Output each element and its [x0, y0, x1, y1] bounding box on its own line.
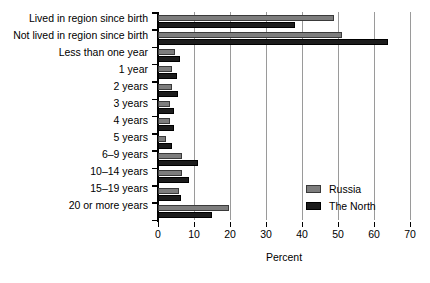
bar-russia-0 [158, 15, 334, 21]
category-label-2-years: 2 years [114, 81, 148, 92]
category-label-lived-since-birth: Lived in region since birth [29, 13, 148, 24]
bar-russia-5 [158, 101, 170, 107]
category-label-6-9-years: 6–9 years [102, 149, 148, 160]
x-tick-mark-10 [194, 222, 196, 227]
x-tick-mark-50 [338, 222, 340, 227]
bar-russia-3 [158, 66, 172, 72]
bar-russia-11 [158, 205, 229, 211]
x-tick-label-60: 60 [359, 228, 389, 240]
category-label-10-14-years: 10–14 years [90, 166, 148, 177]
bar-russia-10 [158, 188, 179, 194]
legend-swatch-russia-icon [306, 185, 321, 193]
bar-russia-9 [158, 170, 182, 176]
gridline-70 [410, 12, 411, 220]
bar-north-0 [158, 22, 295, 28]
category-label-20-or-more-years: 20 or more years [69, 200, 148, 211]
bar-russia-6 [158, 118, 170, 124]
x-tick-label-50: 50 [323, 228, 353, 240]
bar-russia-1 [158, 32, 342, 38]
bar-north-2 [158, 56, 180, 62]
category-label-not-lived-since-birth: Not lived in region since birth [13, 30, 148, 41]
bar-north-8 [158, 160, 198, 166]
bar-chart: Lived in region since birth Not lived in… [0, 0, 430, 283]
bar-north-1 [158, 39, 388, 45]
x-tick-label-40: 40 [287, 228, 317, 240]
legend-swatch-the-north-icon [306, 202, 321, 210]
category-label-15-19-years: 15–19 years [90, 183, 148, 194]
bar-north-11 [158, 212, 212, 218]
category-label-less-than-one-year: Less than one year [59, 47, 148, 58]
category-label-1-year: 1 year [119, 64, 148, 75]
x-tick-mark-70 [410, 222, 412, 227]
bar-north-6 [158, 125, 174, 131]
bar-north-9 [158, 177, 189, 183]
bar-north-7 [158, 143, 172, 149]
category-label-3-years: 3 years [114, 98, 148, 109]
legend-item-the-north: The North [306, 197, 376, 214]
x-tick-label-10: 10 [179, 228, 209, 240]
plot-area: Russia The North [158, 12, 410, 220]
category-axis-labels: Lived in region since birth Not lived in… [0, 0, 152, 283]
x-tick-label-70: 70 [395, 228, 425, 240]
bar-north-5 [158, 108, 174, 114]
bar-north-4 [158, 91, 178, 97]
bar-russia-2 [158, 49, 175, 55]
x-tick-label-30: 30 [251, 228, 281, 240]
x-tick-mark-0 [158, 222, 160, 227]
x-tick-mark-30 [266, 222, 268, 227]
x-tick-mark-60 [374, 222, 376, 227]
bar-north-3 [158, 73, 177, 79]
bar-russia-7 [158, 136, 166, 142]
legend-label-the-north: The North [329, 200, 376, 212]
category-label-4-years: 4 years [114, 115, 148, 126]
legend-label-russia: Russia [329, 183, 361, 195]
x-tick-mark-20 [230, 222, 232, 227]
category-label-5-years: 5 years [114, 132, 148, 143]
x-tick-label-20: 20 [215, 228, 245, 240]
chart-legend: Russia The North [306, 180, 376, 214]
bar-north-10 [158, 195, 181, 201]
bar-russia-8 [158, 153, 182, 159]
x-tick-label-0: 0 [143, 228, 173, 240]
bar-russia-4 [158, 84, 172, 90]
x-tick-mark-40 [302, 222, 304, 227]
x-axis-title: Percent [158, 251, 410, 263]
legend-item-russia: Russia [306, 180, 376, 197]
